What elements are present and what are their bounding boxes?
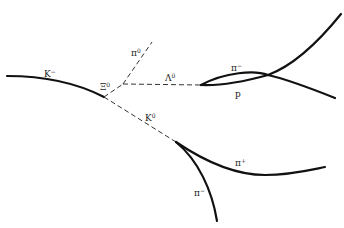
lambda-zero-label: Λ0 xyxy=(164,72,176,83)
k-zero-label: K0 xyxy=(145,112,156,123)
xi-zero-label: Ξ0 xyxy=(100,81,110,92)
pi-minus-k-label: π− xyxy=(194,187,205,198)
lambda-zero-track xyxy=(123,84,201,85)
pi-zero-label: π0 xyxy=(131,47,141,58)
pi-minus-lambda-label: π− xyxy=(231,62,242,73)
proton-track xyxy=(201,75,335,98)
proton-label: p xyxy=(235,89,241,99)
particle-decay-diagram: K− Ξ0 π0 Λ0 K0 π− p π+ π− xyxy=(0,0,344,228)
pi-minus-lambda-track xyxy=(201,14,341,85)
k-minus-label: K− xyxy=(44,68,56,79)
k-minus-track xyxy=(7,76,104,97)
k-zero-track xyxy=(104,97,176,142)
pi-plus-label: π+ xyxy=(235,157,246,168)
